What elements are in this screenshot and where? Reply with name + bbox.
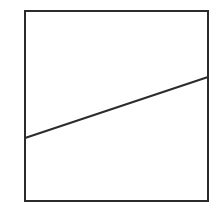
- plot-frame-border: [25, 11, 208, 201]
- line-plot-figure: [0, 0, 223, 212]
- figure-container: [0, 0, 223, 212]
